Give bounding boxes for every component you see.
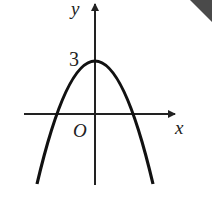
y-intercept-label: 3 (69, 48, 79, 70)
origin-label: O (73, 120, 87, 141)
parabola-plot: y 3 O x (0, 0, 212, 223)
y-axis-label: y (69, 0, 80, 19)
x-axis-label: x (174, 117, 184, 138)
